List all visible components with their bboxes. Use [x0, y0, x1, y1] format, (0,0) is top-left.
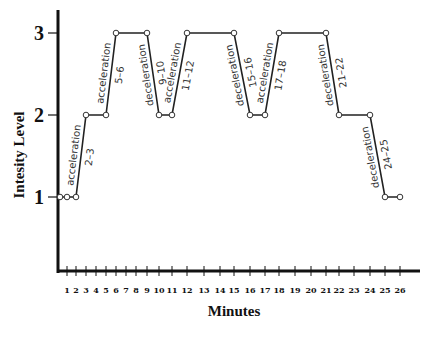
x-tick-label: 25 [379, 285, 390, 295]
y-tick-label: 3 [34, 22, 44, 44]
data-point-marker [276, 30, 282, 36]
x-tick-label: 15 [228, 285, 239, 295]
y-tick-label: 2 [34, 104, 44, 126]
y-axis-ticks: 123 [34, 22, 58, 208]
data-point-marker [169, 112, 175, 118]
x-tick-label: 22 [333, 285, 344, 295]
x-tick-label: 7 [123, 285, 129, 295]
data-point-marker [367, 112, 373, 118]
x-tick-label: 13 [198, 285, 210, 295]
x-tick-label: 12 [181, 285, 192, 295]
data-point-marker [323, 30, 329, 36]
x-tick-label: 1 [64, 285, 70, 295]
data-point-marker [397, 194, 403, 200]
x-tick-label: 6 [113, 285, 119, 295]
x-tick-label: 26 [394, 285, 406, 295]
data-point-marker [83, 112, 89, 118]
x-tick-label: 2 [73, 285, 79, 295]
annotation-range-label: 5–6 [113, 66, 126, 85]
x-tick-label: 10 [153, 285, 165, 295]
x-tick-label: 19 [289, 285, 301, 295]
data-point-marker [103, 112, 109, 118]
x-tick-label: 5 [103, 285, 109, 295]
annotation-range-label: 11–12 [180, 60, 196, 92]
x-tick-label: 16 [244, 285, 256, 295]
x-tick-label: 8 [133, 285, 139, 295]
x-tick-label: 20 [305, 285, 317, 295]
data-point-marker [64, 194, 70, 200]
annotation-type-label: acceleration [64, 124, 82, 186]
data-point-marker [382, 194, 388, 200]
data-point-marker [247, 112, 253, 118]
x-tick-label: 3 [83, 285, 89, 295]
annotation-range-label: 24–25 [378, 139, 394, 171]
x-tick-label: 18 [273, 285, 285, 295]
y-tick-label: 1 [34, 186, 44, 208]
x-tick-label: 14 [214, 285, 226, 295]
x-tick-label: 11 [166, 285, 177, 295]
data-point-marker [113, 30, 119, 36]
data-point-marker [231, 30, 237, 36]
annotation-range-label: 21–22 [333, 57, 349, 89]
x-tick-label: 9 [144, 285, 150, 295]
x-tick-label: 24 [364, 285, 376, 295]
data-point-marker [57, 194, 63, 200]
x-tick-label: 4 [93, 285, 99, 295]
data-point-marker [262, 112, 268, 118]
data-point-marker [184, 30, 190, 36]
data-point-marker [73, 194, 79, 200]
data-point-marker [156, 112, 162, 118]
x-axis-title: Minutes [208, 303, 261, 319]
annotation-range-label: 17–18 [272, 59, 288, 91]
annotation-type-label: acceleration [94, 42, 112, 104]
x-tick-label: 23 [348, 285, 360, 295]
annotation-range-label: 2–3 [83, 148, 96, 167]
x-tick-label: 17 [259, 285, 270, 295]
data-point-marker [144, 30, 150, 36]
y-axis-title: Intesity Level [11, 111, 27, 198]
data-point-marker [336, 112, 342, 118]
intensity-chart: 1234567891011121314151617181920212223242… [0, 0, 434, 347]
x-tick-label: 21 [320, 285, 331, 295]
